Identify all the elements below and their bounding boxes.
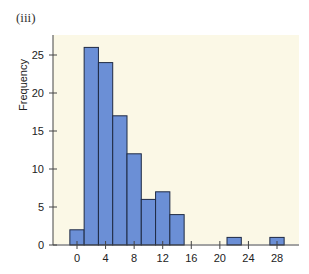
histogram-bar [98,63,112,245]
histogram-chart: 0510152025 0481216202428 Frequency [0,0,309,274]
histogram-bar [113,116,127,245]
y-axis-label: Frequency [17,59,29,111]
y-tick-label: 10 [32,163,44,175]
x-tick-label: 16 [185,252,197,264]
y-tick-label: 20 [32,87,44,99]
histogram-bar [141,199,155,245]
x-tick-label: 0 [74,252,80,264]
histogram-bar [170,215,184,245]
x-tick-label: 20 [214,252,226,264]
y-tick-label: 0 [38,239,44,251]
x-tick-label: 12 [157,252,169,264]
histogram-bar [127,154,141,245]
y-tick-label: 5 [38,201,44,213]
x-tick-label: 24 [242,252,254,264]
histogram-bar [84,47,98,245]
x-tick-label: 8 [131,252,137,264]
x-tick-label: 28 [271,252,283,264]
y-tick-label: 15 [32,125,44,137]
x-tick-label: 4 [103,252,109,264]
histogram-bar [227,237,241,245]
histogram-bar [156,192,170,245]
y-tick-label: 25 [32,49,44,61]
